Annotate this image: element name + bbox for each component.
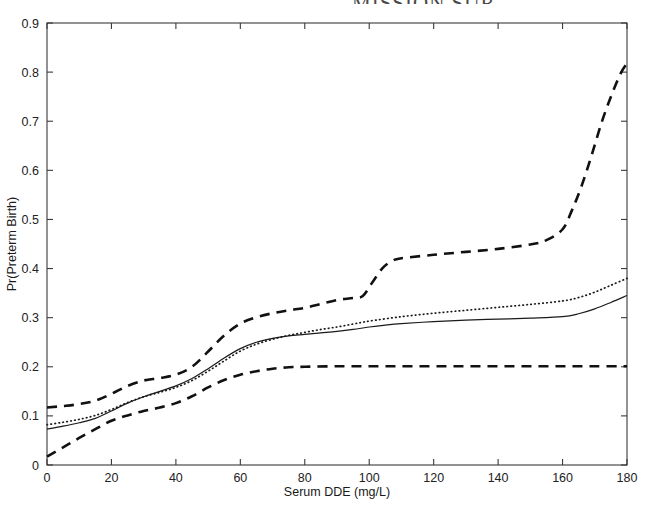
x-tick-label: 60: [233, 471, 247, 485]
x-tick-label: 140: [488, 471, 509, 485]
y-tick-label: 0.5: [22, 213, 39, 227]
y-tick-label: 0: [32, 459, 39, 473]
y-axis-ticks: [47, 23, 627, 465]
y-axis-title: Pr(Preterm Birth): [5, 197, 19, 291]
x-axis-tick-labels: 020406080100120140160180: [44, 471, 638, 485]
x-tick-label: 120: [423, 471, 444, 485]
x-tick-label: 160: [552, 471, 573, 485]
x-tick-label: 0: [44, 471, 51, 485]
series-line-0: [47, 296, 627, 430]
y-tick-label: 0.9: [22, 17, 39, 31]
y-tick-label: 0.1: [22, 409, 39, 423]
y-tick-label: 0.8: [22, 66, 39, 80]
series-line-2: [47, 63, 627, 407]
y-tick-label: 0.3: [22, 311, 39, 325]
plot-border: [47, 23, 627, 465]
x-tick-label: 80: [298, 471, 312, 485]
x-axis-title: Serum DDE (mg/L): [284, 485, 390, 499]
figure-container: MISSION SUR 020406080100120140160180 00.…: [0, 0, 648, 507]
y-tick-label: 0.4: [22, 262, 39, 276]
y-tick-label: 0.7: [22, 115, 39, 129]
dose-response-chart: 020406080100120140160180 00.10.20.30.40.…: [0, 0, 648, 507]
series-line-1: [47, 278, 627, 424]
x-tick-label: 20: [104, 471, 118, 485]
y-axis-tick-labels: 00.10.20.30.40.50.60.70.80.9: [22, 17, 39, 473]
data-series-group: [47, 63, 627, 456]
plot-frame: [47, 23, 627, 465]
x-axis-ticks: [47, 23, 627, 465]
x-tick-label: 180: [617, 471, 638, 485]
y-tick-label: 0.6: [22, 164, 39, 178]
x-tick-label: 100: [359, 471, 380, 485]
x-tick-label: 40: [169, 471, 183, 485]
y-tick-label: 0.2: [22, 360, 39, 374]
series-line-3: [47, 366, 627, 456]
